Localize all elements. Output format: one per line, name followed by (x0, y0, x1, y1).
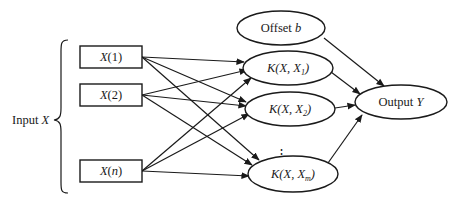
edge-x1-k1 (142, 57, 244, 62)
edge-xn-k2 (142, 114, 249, 171)
input-x-label: Input X (12, 113, 51, 127)
edge-k1-output (331, 72, 360, 94)
kernel-node-k2: K(X, X2) (245, 92, 335, 126)
input-brace (54, 40, 68, 193)
input-node-x2: X(2) (80, 84, 142, 106)
input-node-xn: X(n) (80, 160, 142, 182)
svg-text:X(1): X(1) (99, 50, 122, 64)
edge-offset-output (324, 38, 384, 86)
kernel-node-km: K(X, Xm) (248, 156, 338, 192)
svg-text:Output Y: Output Y (379, 95, 426, 109)
edge-x1-km (142, 57, 259, 160)
edge-xn-km (142, 171, 249, 176)
offset-node: Offset b (237, 11, 325, 45)
svg-text:X(n): X(n) (99, 164, 122, 178)
svg-text:Offset b: Offset b (261, 21, 301, 35)
kernel-node-k1: K(X, X1) (243, 51, 333, 85)
edge-k2-output (335, 105, 355, 108)
input-kernel-edges (142, 57, 259, 176)
edge-km-output (328, 115, 362, 163)
output-node: Output Y (355, 85, 447, 119)
edge-xn-k1 (142, 78, 251, 171)
kernel-network-diagram: Input X X(1) X(2) X(n) Offset b (0, 0, 465, 201)
svg-text:X(2): X(2) (99, 88, 122, 102)
diagram-canvas: Input X X(1) X(2) X(n) Offset b (0, 0, 465, 201)
edge-x2-k1 (142, 70, 247, 95)
input-node-x1: X(1) (80, 46, 142, 68)
